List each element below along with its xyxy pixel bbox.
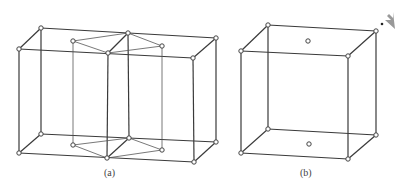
cursor-arrow-icon bbox=[381, 12, 395, 29]
face-center-top bbox=[306, 39, 310, 43]
caption-b: (b) bbox=[300, 167, 312, 178]
panel-b-diagram bbox=[239, 23, 378, 161]
atoms-panel-a bbox=[17, 26, 218, 164]
face-center-bottom bbox=[307, 142, 311, 146]
caption-a: (a) bbox=[104, 167, 115, 178]
figure-canvas bbox=[0, 0, 411, 190]
atoms-panel-b bbox=[239, 23, 378, 161]
panel-a-diagram bbox=[17, 26, 218, 164]
